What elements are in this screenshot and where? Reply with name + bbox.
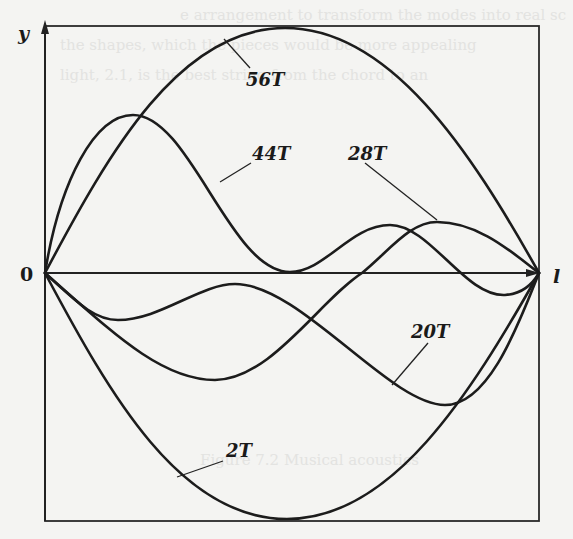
label-28T: 28T [347,143,388,164]
curve-2T [45,273,539,519]
label-2T: 2T [225,440,254,461]
y-axis-arrow-icon [41,20,49,34]
origin-label: 0 [20,263,33,285]
curve-44T [45,115,539,295]
leader-28T [365,163,437,220]
label-20T: 20T [410,321,451,342]
end-label: l [553,265,560,287]
svg-text:light, 2.1, is the best string: light, 2.1, is the best string from the … [60,66,429,84]
svg-text:the shapes, which the pieces w: the shapes, which the pieces would be mo… [60,36,477,54]
curve-56T [45,28,539,273]
label-56T: 56T [246,69,286,90]
vibrating-string-figure: e arrangement to transform the modes int… [0,0,573,539]
leader-20T [392,343,428,385]
y-axis-label: y [17,22,31,44]
svg-text:e arrangement to transform the: e arrangement to transform the modes int… [180,6,566,24]
label-44T: 44T [252,143,292,164]
leader-44T [220,163,251,182]
curve-28T [45,222,539,380]
